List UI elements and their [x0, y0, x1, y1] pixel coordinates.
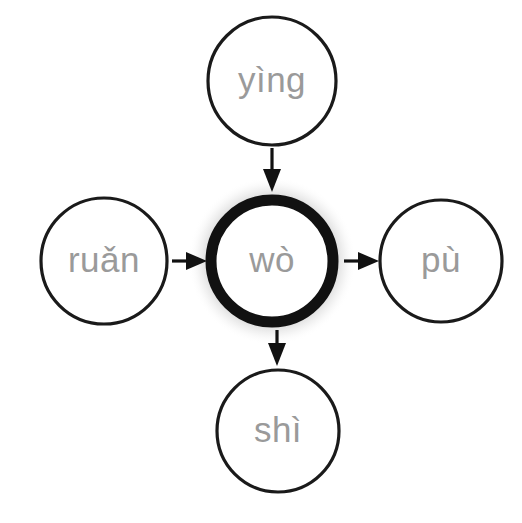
node-wo-label: wò — [248, 240, 295, 279]
node-ruan-label: ruǎn — [68, 240, 140, 279]
node-pu[interactable]: pù — [380, 200, 502, 322]
node-shi[interactable]: shì — [217, 370, 339, 492]
radial-node-diagram: yìng ruǎn pù shì wò — [0, 0, 522, 523]
node-wo[interactable]: wò — [211, 200, 333, 322]
node-ying[interactable]: yìng — [208, 17, 336, 145]
diagram-canvas: yìng ruǎn pù shì wò — [0, 0, 522, 523]
node-pu-label: pù — [421, 240, 461, 279]
node-shi-label: shì — [254, 410, 302, 449]
node-ying-label: yìng — [238, 60, 306, 99]
node-ruan[interactable]: ruǎn — [41, 198, 167, 324]
